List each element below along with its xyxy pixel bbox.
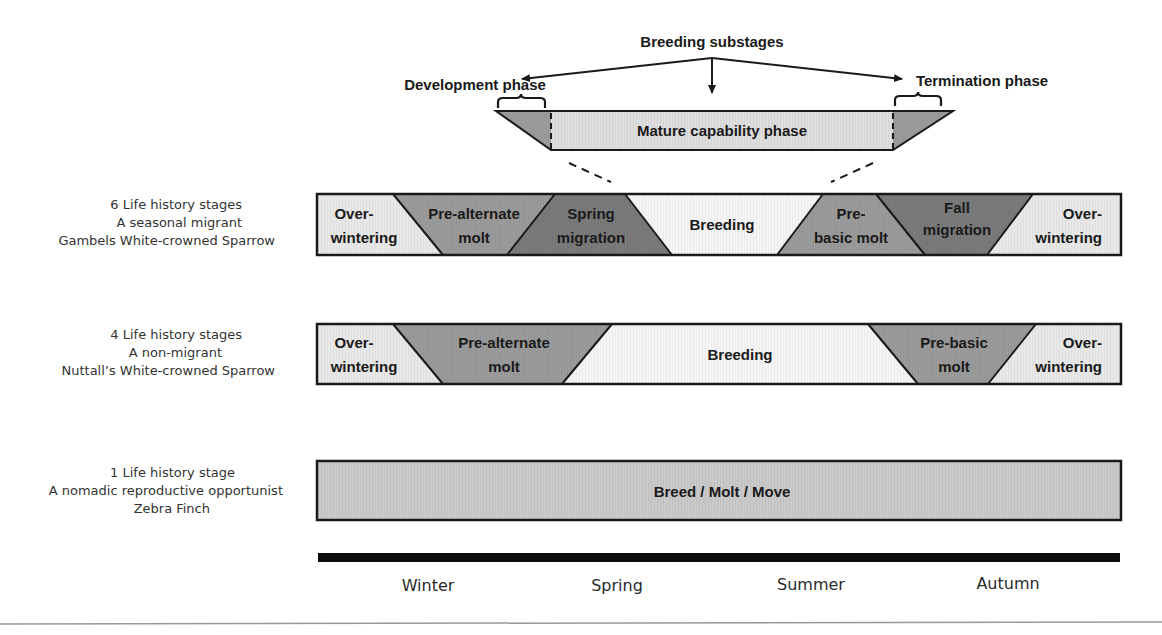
stage-label: Pre-alternate — [428, 205, 520, 222]
season-label: Summer — [777, 575, 845, 594]
mature-capability-label: Mature capability phase — [637, 122, 807, 139]
stage-label: molt — [488, 358, 520, 375]
stage-label: wintering — [1034, 358, 1102, 375]
stage-label: Over- — [1063, 205, 1102, 222]
stage-label: Over- — [334, 334, 373, 351]
stage-label: Breed / Molt / Move — [654, 483, 791, 500]
side-label-line: 4 Life history stages — [110, 327, 242, 342]
season-label: Winter — [402, 576, 455, 595]
season-label: Spring — [591, 576, 643, 595]
side-label-line: A nomadic reproductive opportunist — [49, 483, 283, 498]
stage-label: wintering — [330, 229, 398, 246]
stage-label: wintering — [330, 358, 398, 375]
stage-label: basic molt — [814, 229, 888, 246]
stage-label: Pre- — [836, 205, 865, 222]
termination-brace-icon — [895, 92, 941, 106]
side-label-line: Zebra Finch — [134, 501, 210, 516]
side-label-line: 6 Life history stages — [110, 197, 242, 212]
stage-label: Over- — [1063, 334, 1102, 351]
row-nomadic-bar: Breed / Molt / Move — [317, 461, 1121, 520]
stage-label: Pre-alternate — [458, 334, 550, 351]
stage-label: Breeding — [689, 216, 754, 233]
breeding-substages-callout: Breeding substages Development phase Ter… — [404, 33, 1048, 182]
stage-label: molt — [458, 229, 490, 246]
termination-phase-label: Termination phase — [916, 72, 1048, 89]
row-seasonal-migrant-bar: Over- wintering Pre-alternate molt Sprin… — [317, 194, 1121, 255]
stage-label: Fall — [944, 199, 970, 216]
stage-label: Over- — [334, 205, 373, 222]
season-axis-bar — [318, 553, 1120, 562]
side-label-line: A non-migrant — [129, 345, 222, 360]
season-label: Autumn — [976, 574, 1039, 593]
stage-label: Spring — [567, 205, 615, 222]
side-label-row-2: 4 Life history stages A non-migrant Nutt… — [61, 327, 275, 378]
side-label-line: 1 Life history stage — [110, 465, 235, 480]
stage-label: Pre-basic — [920, 334, 988, 351]
side-label-line: A seasonal migrant — [116, 215, 242, 230]
bottom-divider — [0, 622, 1162, 624]
stage-label: migration — [557, 229, 625, 246]
side-label-line: Gambels White-crowned Sparrow — [58, 233, 275, 248]
stage-label: Breeding — [707, 346, 772, 363]
stage-label: migration — [923, 221, 991, 238]
row-non-migrant-bar: Over- wintering Pre-alternate molt Breed… — [317, 324, 1121, 384]
stage-label: molt — [938, 358, 970, 375]
development-phase-label: Development phase — [404, 76, 546, 93]
side-label-row-1: 6 Life history stages A seasonal migrant… — [58, 197, 275, 248]
arrow-left-icon — [522, 58, 712, 79]
arrow-right-icon — [712, 58, 902, 79]
life-history-diagram: Breeding substages Development phase Ter… — [0, 0, 1162, 635]
development-brace-icon — [498, 94, 545, 108]
breeding-substages-label: Breeding substages — [640, 33, 783, 50]
side-label-row-3: 1 Life history stage A nomadic reproduct… — [49, 465, 283, 516]
side-label-line: Nuttall’s White-crowned Sparrow — [61, 363, 275, 378]
stage-label: wintering — [1034, 229, 1102, 246]
